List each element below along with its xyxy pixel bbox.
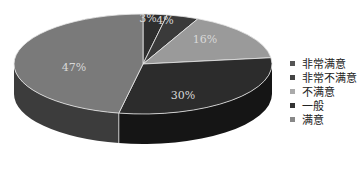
slice-value-label: 30% <box>171 89 195 102</box>
legend-item: 一般 <box>290 98 357 112</box>
slice-value-label: 47% <box>62 61 86 74</box>
slice-value-label: 4% <box>156 14 173 27</box>
slice-value-label: 16% <box>193 33 217 46</box>
legend-item: 非常满意 <box>290 56 357 70</box>
legend-swatch-icon <box>290 75 295 80</box>
legend-item: 非常不满意 <box>290 70 357 84</box>
legend-swatch-icon <box>290 61 295 66</box>
legend-label: 满意 <box>302 111 324 127</box>
legend-item: 不满意 <box>290 84 357 98</box>
legend-item: 满意 <box>290 112 357 126</box>
legend: 非常满意 非常不满意 不满意 一般 满意 <box>290 56 357 126</box>
legend-swatch-icon <box>290 103 295 108</box>
legend-swatch-icon <box>290 89 295 94</box>
legend-swatch-icon <box>290 117 295 122</box>
slice-value-label: 3% <box>139 12 156 25</box>
